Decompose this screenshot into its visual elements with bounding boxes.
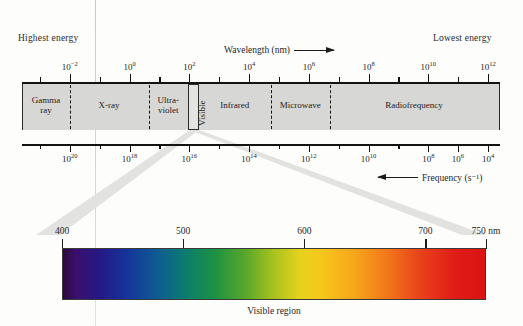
frequency-tick: [428, 144, 429, 152]
frequency-tick-label: 108: [422, 154, 434, 164]
wavelength-tick: [189, 74, 190, 83]
wavelength-tick: [428, 74, 429, 83]
arrow-right-icon: [294, 47, 334, 54]
wavelength-minor-tick: [279, 77, 280, 83]
frequency-minor-tick: [398, 144, 399, 149]
visible-spectrum-bar: [62, 248, 486, 300]
visible-tick-label: 750 nm: [472, 226, 501, 236]
visible-tick-label: 600: [297, 226, 311, 236]
frequency-tick: [189, 144, 190, 152]
wavelength-minor-tick: [100, 77, 101, 83]
wavelength-tick-label: 1010: [421, 62, 437, 72]
frequency-tick: [488, 144, 489, 152]
lowest-energy-label: Lowest energy: [433, 33, 492, 43]
visible-tick-label: 400: [55, 226, 69, 236]
frequency-minor-tick: [339, 144, 340, 149]
highest-energy-label: Highest energy: [18, 33, 78, 43]
wavelength-tick: [309, 74, 310, 83]
wavelength-minor-tick: [339, 77, 340, 83]
frequency-tick: [130, 144, 131, 152]
wavelength-minor-tick: [40, 77, 41, 83]
frequency-tick-label: 1010: [361, 154, 377, 164]
frequency-tick: [249, 144, 250, 152]
wavelength-tick: [130, 74, 131, 83]
frequency-tick-label: 104: [482, 154, 494, 164]
wavelength-tick: [488, 74, 489, 83]
frequency-minor-tick: [100, 144, 101, 149]
frequency-tick: [369, 144, 370, 152]
arrow-left-icon: [378, 174, 418, 181]
wavelength-tick: [249, 74, 250, 83]
electromagnetic-spectrum-figure: Highest energy Lowest energy Wavelength …: [0, 0, 523, 326]
wavelength-tick-label: 10−2: [62, 62, 78, 72]
frequency-tick-label: 1016: [182, 154, 198, 164]
frequency-minor-tick: [159, 144, 160, 149]
wavelength-caption-text: Wavelength (nm): [224, 45, 290, 55]
wavelength-tick-label: 100: [123, 62, 135, 72]
wavelength-minor-tick: [458, 77, 459, 83]
frequency-minor-tick: [279, 144, 280, 149]
visible-tick: [486, 239, 487, 249]
wavelength-axis-caption: Wavelength (nm): [224, 45, 334, 55]
wavelength-tick-label: 106: [303, 62, 315, 72]
visible-tick-label: 500: [176, 226, 190, 236]
frequency-tick-label: 1014: [241, 154, 257, 164]
frequency-tick: [458, 144, 459, 152]
wavelength-tick-label: 108: [362, 62, 374, 72]
wavelength-minor-tick: [398, 77, 399, 83]
wavelength-tick-label: 102: [183, 62, 195, 72]
frequency-tick-label: 1012: [301, 154, 317, 164]
visible-band-label: Visible: [197, 101, 207, 126]
wavelength-tick-label: 104: [243, 62, 255, 72]
wavelength-minor-tick: [159, 77, 160, 83]
wavelength-tick-label: 1012: [480, 62, 496, 72]
frequency-minor-tick: [219, 144, 220, 149]
frequency-tick: [70, 144, 71, 152]
band-label: Microwave: [255, 101, 345, 111]
visible-region-caption: Visible region: [247, 306, 301, 316]
frequency-tick: [309, 144, 310, 152]
wavelength-minor-tick: [219, 77, 220, 83]
frequency-tick-label: 1020: [62, 154, 78, 164]
wavelength-tick: [369, 74, 370, 83]
frequency-tick-label: 106: [452, 154, 464, 164]
frequency-axis-caption: Frequency (s⁻¹): [378, 172, 482, 183]
wavelength-tick: [70, 74, 71, 83]
frequency-minor-tick: [40, 144, 41, 149]
frequency-tick-label: 1018: [122, 154, 138, 164]
band-label: Radiofrequency: [369, 101, 459, 111]
frequency-caption-text: Frequency (s⁻¹): [422, 172, 482, 183]
visible-tick-label: 700: [418, 226, 432, 236]
